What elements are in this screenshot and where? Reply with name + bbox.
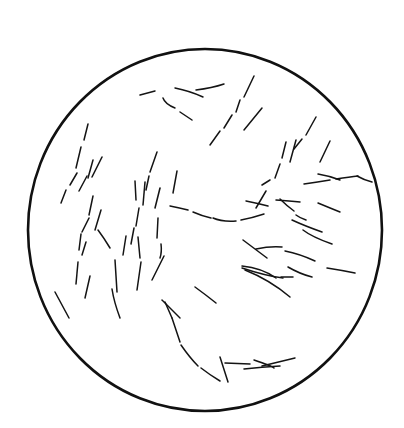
- fiber-strand: [181, 345, 198, 366]
- fiber-strand: [79, 234, 81, 250]
- fiber-strand: [224, 115, 232, 128]
- fiber-strand: [82, 218, 89, 232]
- fiber-strand: [140, 91, 155, 95]
- fiber-strand: [241, 214, 264, 220]
- fiber-strand: [76, 147, 81, 168]
- fiber-strand: [285, 251, 315, 261]
- fiber-strand: [157, 218, 158, 238]
- fiber-strand: [357, 176, 372, 182]
- fiber-strand: [82, 242, 86, 255]
- fiber-strand: [150, 152, 157, 172]
- fiber-strand: [180, 112, 192, 120]
- fiber-strand: [320, 141, 330, 162]
- fiber-strand: [76, 262, 78, 284]
- fiber-strand: [160, 244, 161, 258]
- fiber-strand: [290, 140, 296, 162]
- fiber-strand: [201, 368, 220, 381]
- fiber-strand: [146, 176, 149, 190]
- fiber-strand: [306, 117, 316, 135]
- fiber-strand: [143, 182, 145, 205]
- fiber-strand: [262, 180, 270, 185]
- fiber-strand: [244, 108, 262, 130]
- fiber-strand: [304, 180, 330, 184]
- fiber-strand: [55, 292, 69, 318]
- fiber-strand: [172, 318, 180, 342]
- field-of-view-circle: [28, 49, 382, 411]
- fiber-strand: [244, 76, 254, 97]
- fiber-strand: [275, 164, 280, 178]
- fiber-strand: [282, 142, 286, 158]
- fiber-strand: [61, 190, 66, 203]
- fiber-strand: [85, 276, 90, 298]
- fiber-strand: [89, 196, 93, 215]
- fiber-strand: [220, 357, 228, 382]
- fiber-strand: [236, 100, 240, 112]
- fiber-strands: [55, 76, 372, 382]
- fiber-strand: [225, 363, 250, 364]
- fiber-strand: [170, 206, 188, 210]
- fiber-strand: [245, 270, 290, 297]
- fiber-strand: [213, 218, 236, 221]
- fiber-strand: [95, 210, 101, 230]
- fiber-strand: [152, 256, 164, 280]
- fiber-strand: [131, 228, 134, 244]
- fiber-strand: [137, 262, 141, 290]
- fiber-strand: [296, 215, 306, 220]
- fiber-strand: [163, 98, 175, 108]
- fiber-strand: [112, 289, 120, 318]
- fiber-strand: [243, 240, 267, 258]
- fiber-strand: [115, 260, 117, 292]
- fiber-strand: [276, 200, 300, 202]
- fiber-strand: [193, 212, 211, 218]
- fiber-strand: [79, 176, 87, 191]
- fiber-strand: [242, 268, 283, 278]
- fiber-strand: [196, 84, 224, 90]
- fiber-strand: [318, 203, 340, 212]
- fiber-strand: [288, 267, 312, 277]
- fiber-strand: [210, 131, 220, 145]
- fiber-strand: [173, 171, 177, 193]
- fiber-strand: [303, 230, 332, 244]
- fiber-strand: [70, 173, 77, 185]
- fiber-strand: [84, 124, 88, 140]
- fiber-strand: [327, 268, 355, 273]
- fiber-strand: [262, 358, 295, 366]
- fiber-strand: [98, 230, 110, 248]
- fiber-strand: [136, 208, 139, 226]
- fiber-strand: [135, 181, 136, 200]
- fiber-strand: [123, 236, 126, 255]
- fiber-strand: [292, 220, 322, 232]
- fiber-strand: [195, 287, 216, 303]
- fiber-strand: [138, 237, 140, 258]
- microscope-field-figure: [0, 0, 404, 428]
- fiber-strand: [256, 247, 282, 249]
- fiber-strand: [336, 176, 358, 179]
- fiber-strand: [155, 188, 160, 208]
